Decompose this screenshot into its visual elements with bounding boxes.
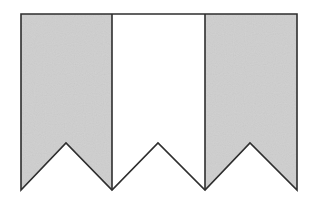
banner-strip-left: [21, 14, 112, 190]
banner-strip-middle: [112, 14, 205, 190]
banner-strips: [21, 14, 297, 190]
banner-diagram: [0, 0, 321, 206]
banner-strip-right: [205, 14, 297, 190]
